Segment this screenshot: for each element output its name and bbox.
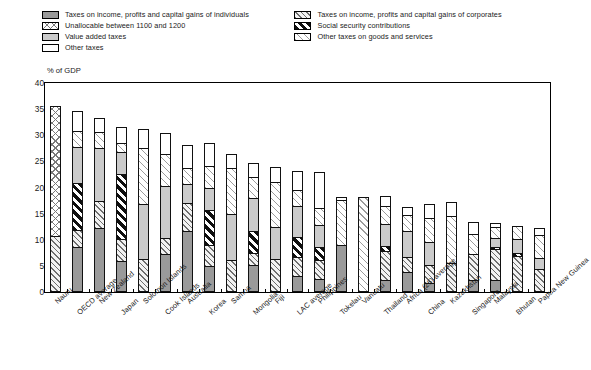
x-axis-tick-mark	[352, 289, 353, 292]
legend-item-corporates: Taxes on income, profits and capital gai…	[294, 10, 542, 20]
legend-swatch-corporates-icon	[294, 11, 311, 19]
bar-samoa[interactable]	[226, 154, 237, 292]
bar-segment-vat	[315, 226, 324, 248]
legend-label-corporates: Taxes on income, profits and capital gai…	[317, 11, 501, 19]
bar-new-zealand[interactable]	[94, 118, 105, 292]
bar-segment-corporates	[491, 250, 500, 280]
bar-segment-vat	[183, 185, 192, 204]
bar-segment-goods	[227, 169, 236, 215]
bar-segment-other	[315, 173, 324, 209]
bar-segment-goods	[337, 201, 346, 246]
legend-label-goods: Other taxes on goods and services	[317, 33, 432, 41]
bar-segment-other	[381, 198, 390, 208]
x-axis-label: Bhutan	[514, 294, 538, 317]
x-axis-label: Mongolia	[251, 290, 280, 317]
bar-solomon-islands[interactable]	[138, 129, 149, 292]
bar-oecd-average[interactable]	[72, 111, 83, 292]
x-axis-tick-mark	[528, 289, 529, 292]
bar-mongolia[interactable]	[248, 163, 259, 292]
y-axis-tick-label: 30	[26, 130, 44, 140]
bar-segment-corporates	[271, 260, 280, 291]
x-axis-tick-mark	[287, 289, 288, 292]
bar-segment-corporates	[315, 261, 324, 280]
bar-segment-goods	[359, 198, 368, 291]
bar-segment-corporates	[95, 202, 104, 229]
bar-fiji[interactable]	[270, 167, 281, 292]
bar-africa-26-average[interactable]	[402, 207, 413, 292]
bar-lac-average[interactable]	[292, 171, 303, 292]
bar-segment-goods	[161, 155, 170, 187]
bar-segment-other	[293, 172, 302, 191]
bar-segment-goods	[95, 133, 104, 149]
bar-papua-new-guinea[interactable]	[534, 228, 545, 292]
bar-segment-social	[315, 248, 324, 261]
y-axis: 0510152025303540	[22, 82, 44, 293]
bar-segment-other	[249, 164, 258, 178]
bar-segment-goods	[535, 236, 544, 259]
bar-kazakhstan[interactable]	[446, 202, 457, 292]
bar-segment-goods	[425, 219, 434, 243]
bar-segment-goods	[139, 149, 148, 204]
x-axis-label: Korea	[207, 297, 228, 317]
y-axis-tick-label: 20	[26, 183, 44, 193]
bar-nauru[interactable]	[50, 106, 61, 292]
bar-segment-vat	[117, 153, 126, 175]
bar-segment-goods	[491, 228, 500, 239]
bar-segment-individuals	[73, 248, 82, 291]
bar-series-container	[45, 83, 550, 292]
bar-segment-vat	[381, 225, 390, 247]
bar-segment-vat	[73, 148, 82, 184]
x-axis-labels: NauruOECD averageNew ZealandJapanSolomon…	[0, 293, 562, 370]
bar-cook-islands[interactable]	[160, 133, 171, 292]
bar-segment-other	[95, 119, 104, 133]
legend-swatch-social-icon	[294, 22, 311, 30]
bar-malaysia[interactable]	[490, 223, 501, 292]
bar-segment-corporates	[183, 204, 192, 232]
x-axis-tick-mark	[221, 289, 222, 292]
bar-segment-corporates	[403, 258, 412, 273]
bar-segment-goods	[271, 183, 280, 227]
y-axis-tick-label: 40	[26, 78, 44, 88]
bar-thailand[interactable]	[380, 196, 391, 292]
bar-segment-social	[73, 184, 82, 232]
bar-segment-corporates	[205, 246, 214, 267]
legend-swatch-unallocable-icon	[42, 22, 59, 30]
legend-column-right: Taxes on income, profits and capital gai…	[294, 10, 542, 54]
bar-segment-social	[293, 238, 302, 258]
bar-segment-goods	[469, 235, 478, 255]
bar-segment-corporates	[117, 240, 126, 262]
legend-column-left: Taxes on income, profits and capital gai…	[42, 10, 294, 54]
bar-segment-social	[249, 232, 258, 254]
bar-segment-corporates	[161, 239, 170, 255]
bar-segment-other	[535, 229, 544, 236]
y-axis-tick-label: 5	[26, 261, 44, 271]
bar-segment-vat	[95, 149, 104, 202]
bar-vanuatu[interactable]	[358, 197, 369, 292]
legend-swatch-individuals-icon	[42, 11, 59, 19]
legend-swatch-other-icon	[42, 44, 59, 52]
legend-swatch-goods-icon	[294, 33, 311, 41]
bar-segment-goods	[117, 144, 126, 153]
bar-segment-corporates	[535, 270, 544, 291]
bar-segment-vat	[161, 187, 170, 239]
x-axis-tick-mark	[396, 289, 397, 292]
x-axis-tick-mark	[440, 289, 441, 292]
legend-item-social: Social security contributions	[294, 21, 542, 31]
bar-segment-other	[139, 130, 148, 149]
bar-segment-corporates	[249, 254, 258, 265]
bar-segment-vat	[403, 232, 412, 258]
bar-segment-goods	[315, 209, 324, 226]
y-axis-tick-label: 35	[26, 104, 44, 114]
bar-segment-vat	[491, 239, 500, 247]
bar-korea[interactable]	[204, 143, 215, 292]
x-axis-label: Tokelau	[338, 293, 363, 317]
legend-label-vat: Value added taxes	[65, 33, 126, 41]
legend-item-goods: Other taxes on goods and services	[294, 32, 542, 42]
bar-philippines[interactable]	[314, 172, 325, 292]
x-axis-tick-mark	[133, 289, 134, 292]
x-axis-label: Thailand	[382, 291, 410, 317]
bar-segment-vat	[249, 199, 258, 232]
bar-japan[interactable]	[116, 127, 127, 292]
legend-label-unallocable: Unallocable between 1100 and 1200	[65, 22, 185, 30]
